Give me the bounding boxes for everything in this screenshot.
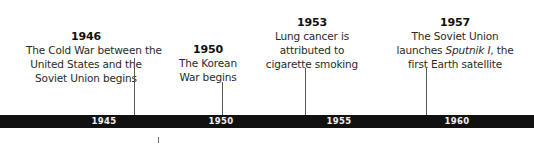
- event-description-line: Soviet Union begins: [26, 71, 146, 85]
- event-1950: 1950 The Korean War begins: [168, 43, 248, 84]
- event-1957: 1957 The Soviet Union launches Sputnik I…: [395, 16, 515, 71]
- event-description-line: Lung cancer is: [262, 29, 362, 43]
- tick-label-1960: 1960: [445, 116, 470, 127]
- sputnik-title: Sputnik I: [446, 44, 491, 56]
- event-description-line: War begins: [168, 70, 248, 84]
- event-year: 1953: [262, 16, 362, 29]
- tick-label-1945: 1945: [92, 116, 117, 127]
- event-description-line: first Earth satellite: [395, 57, 515, 71]
- event-description-line: attributed to: [262, 43, 362, 57]
- event-description-line: The Soviet Union: [395, 29, 515, 43]
- event-1946: 1946 The Cold War between the United Sta…: [26, 30, 146, 85]
- connector-line-1950: [222, 82, 223, 115]
- connector-line-1953: [305, 68, 306, 115]
- event-description-line: United States and the: [26, 57, 146, 71]
- event-description-line: The Cold War between the: [26, 43, 146, 57]
- event-description-line: launches Sputnik I, the: [395, 43, 515, 57]
- event-description-line: cigarette smoking: [262, 57, 362, 71]
- event-year: 1946: [26, 30, 146, 43]
- tick-label-1950: 1950: [209, 116, 234, 127]
- event-text-prefix: launches: [396, 44, 445, 56]
- connector-line-1946: [134, 58, 135, 115]
- event-year: 1957: [395, 16, 515, 29]
- event-1953: 1953 Lung cancer is attributed to cigare…: [262, 16, 362, 71]
- event-year: 1950: [168, 43, 248, 56]
- tick-mark: [158, 137, 159, 143]
- event-description-line: The Korean: [168, 56, 248, 70]
- event-text-suffix: , the: [490, 44, 513, 56]
- connector-line-1957: [426, 68, 427, 115]
- tick-label-1955: 1955: [327, 116, 352, 127]
